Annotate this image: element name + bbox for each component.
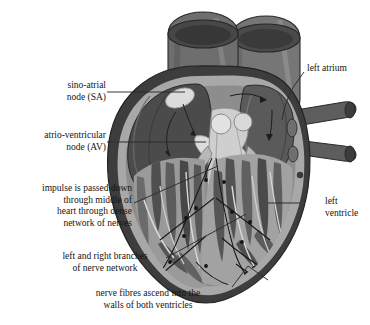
label-av-node: atrio-ventricular node (AV): [6, 130, 106, 153]
valve-cusp-left: [211, 114, 231, 134]
heart-conduction-diagram: sino-atrial node (SA) atrio-ventricular …: [0, 0, 370, 325]
label-left-atrium: left atrium: [307, 63, 369, 75]
label-sa-node: sino-atrial node (SA): [14, 80, 106, 103]
label-nerve-fibres: nerve fibres ascend into the walls of bo…: [62, 288, 234, 311]
heart-illustration: [0, 0, 370, 325]
label-nerve-branches: left and right branches of nerve network: [44, 251, 166, 274]
label-impulse-path: impulse is passed down through middle of…: [2, 183, 132, 229]
valve-cusp-right: [234, 113, 252, 131]
label-left-ventricle: left ventricle: [325, 196, 370, 219]
